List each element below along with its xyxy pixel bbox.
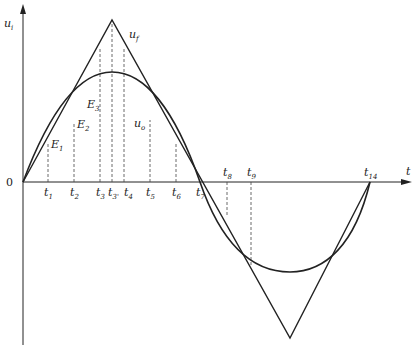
x-axis-label: t [406,165,411,178]
point-e1-label: E1 [50,138,64,153]
tick-t5: t5 [146,186,155,201]
x-axis-arrow-icon [401,179,412,185]
tick-t9: t9 [247,166,256,181]
tick-t4: t4 [124,186,133,201]
uf-label: uf [129,28,140,43]
axes [20,4,412,345]
tick-t6: t6 [172,186,181,201]
triangle-wave-uf [23,20,370,338]
tick-t1: t1 [44,186,53,201]
point-e3-label: E3 [86,98,100,113]
y-axis-arrow-icon [20,4,26,14]
tick-t7: t7 [196,186,205,201]
tick-t2: t2 [70,186,79,201]
tick-t3: t3 [96,186,105,201]
uo-label: uo [134,117,145,132]
sine-wave-uo [23,72,370,272]
waveform-diagram: ui t 0 uf uo E1 E2 E3 t1 t2 t3 t3' t4 t5… [0,0,418,349]
y-axis-label: ui [4,17,13,32]
point-e2-label: E2 [76,118,90,133]
tick-t14: t14 [364,166,377,181]
origin-label: 0 [6,176,13,189]
tick-t8: t8 [223,166,232,181]
tick-t3-prime: t3' [108,186,119,201]
